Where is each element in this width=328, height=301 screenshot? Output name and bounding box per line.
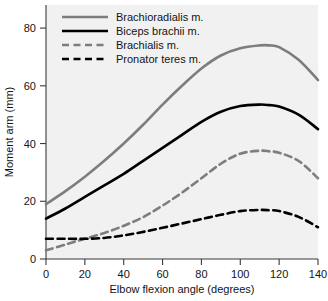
y-tick-label: 20 bbox=[24, 195, 36, 207]
x-axis-title: Elbow flexion angle (degrees) bbox=[110, 283, 255, 295]
x-tick-label: 140 bbox=[309, 268, 327, 280]
x-tick-label: 0 bbox=[43, 268, 49, 280]
y-axis-title: Moment arm (mm) bbox=[3, 87, 15, 177]
y-tick-label: 60 bbox=[24, 80, 36, 92]
legend-label: Pronator teres m. bbox=[116, 53, 201, 65]
y-tick-label: 80 bbox=[24, 22, 36, 34]
x-axis-ticks: 020406080100120140 bbox=[43, 259, 327, 280]
x-tick-label: 60 bbox=[156, 268, 168, 280]
plot-background bbox=[46, 5, 318, 259]
legend-label: Brachialis m. bbox=[116, 39, 179, 51]
x-tick-label: 120 bbox=[270, 268, 288, 280]
legend-label: Brachioradialis m. bbox=[116, 11, 203, 23]
y-tick-label: 40 bbox=[24, 138, 36, 150]
x-tick-label: 80 bbox=[195, 268, 207, 280]
x-tick-label: 20 bbox=[79, 268, 91, 280]
chart-figure: 020406080 020406080100120140 Elbow flexi… bbox=[0, 0, 328, 301]
x-tick-label: 100 bbox=[231, 268, 249, 280]
moment-arm-line-chart: 020406080 020406080100120140 Elbow flexi… bbox=[0, 0, 328, 301]
y-axis-ticks: 020406080 bbox=[24, 22, 46, 265]
y-tick-label: 0 bbox=[30, 253, 36, 265]
legend-label: Biceps brachii m. bbox=[116, 25, 200, 37]
x-tick-label: 40 bbox=[118, 268, 130, 280]
